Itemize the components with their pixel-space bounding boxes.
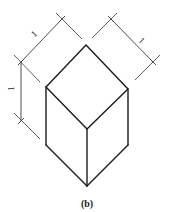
dimension-line (111, 19, 153, 62)
cube (46, 45, 128, 186)
figure-caption: (b) (81, 198, 93, 210)
dimension-label: 1 (29, 29, 39, 39)
dimension-right-top: 1 (92, 13, 160, 80)
dimension-vertical: 1 (6, 62, 40, 139)
dimension-line (21, 19, 62, 62)
extension-line (56, 13, 82, 39)
extension-line (14, 55, 40, 82)
extension-line (92, 13, 117, 38)
dimension-left-top: 1 (14, 13, 82, 82)
cube-top-face (46, 45, 128, 129)
isometric-cube-diagram: 1 1 1 (b) (0, 0, 169, 212)
cube-bottom-right-edge (87, 145, 128, 186)
cube-bottom-left-edge (46, 145, 87, 186)
extension-line (135, 55, 160, 80)
extension-line (14, 113, 40, 139)
dimension-label: 1 (6, 87, 16, 92)
dimension-label: 1 (136, 35, 146, 45)
